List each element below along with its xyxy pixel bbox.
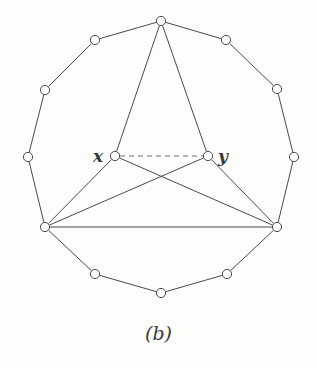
graph-node [156, 288, 165, 297]
graph-edge [29, 162, 44, 222]
graph-node [272, 222, 281, 231]
graph-edge [278, 94, 293, 152]
graph-edge [166, 275, 222, 291]
graph-node [222, 269, 231, 278]
graph-node [90, 269, 99, 278]
graph-edge [49, 160, 112, 224]
vertex-label-y: y [218, 148, 228, 165]
graph-edge [231, 230, 274, 270]
graph-edge [50, 158, 204, 225]
node-layer [23, 16, 298, 297]
graph-canvas [0, 0, 317, 368]
graph-edge [100, 22, 156, 38]
graph-edge [166, 22, 221, 38]
graph-edge [49, 44, 92, 87]
graph-edge [211, 160, 273, 224]
graph-edge [100, 275, 156, 291]
graph-node [23, 152, 32, 161]
graph-edge [117, 26, 160, 152]
graph-node [156, 16, 165, 25]
graph-edge [120, 158, 273, 225]
graph-node [272, 84, 281, 93]
graph-node [90, 35, 99, 44]
graph-edge [278, 162, 293, 222]
figure-caption: (b) [0, 324, 317, 343]
figure-container: x y (b) [0, 0, 317, 368]
graph-edge [230, 43, 274, 85]
graph-node [221, 35, 230, 44]
graph-node-y [203, 151, 212, 160]
graph-node-x [110, 151, 119, 160]
graph-node [40, 85, 49, 94]
graph-node [289, 152, 298, 161]
graph-edge [163, 26, 207, 152]
graph-node [40, 222, 49, 231]
graph-edge [29, 95, 44, 152]
edge-layer [29, 22, 293, 291]
graph-edge [49, 230, 92, 270]
vertex-label-x: x [93, 148, 103, 165]
